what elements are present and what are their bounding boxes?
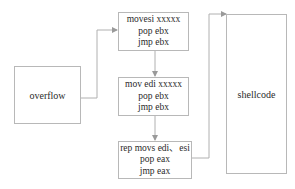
gadget2-line-2: pop ebx [138,91,168,103]
gadget3-line-1: rep movs edi、esi [120,143,190,155]
overflow-label: overflow [29,90,65,101]
gadget3-line-3: jmp eax [140,166,170,178]
gadget1-line-2: pop ebx [138,26,168,38]
edge-overflow-to-gadget1 [81,30,117,98]
gadget2-line-3: jmp ebx [138,102,169,114]
gadget2-box: mov edi xxxxx pop ebx jmp ebx [118,77,189,116]
gadget3-box: rep movs edi、esi pop eax jmp eax [118,141,192,179]
shellcode-label: shellcode [238,89,276,100]
edge-gadget3-to-shellcode [192,14,226,158]
gadget3-line-2: pop eax [140,154,170,166]
gadget1-line-1: movesi xxxxx [127,14,181,26]
gadget2-line-1: mov edi xxxxx [125,79,182,91]
gadget1-box: movesi xxxxx pop ebx jmp ebx [118,12,189,51]
gadget1-line-3: jmp ebx [138,37,169,49]
overflow-box: overflow [14,66,81,124]
shellcode-box: shellcode [226,14,287,174]
